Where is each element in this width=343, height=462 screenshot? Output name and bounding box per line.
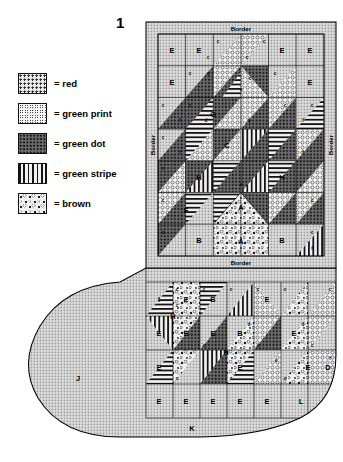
foot-label-E-14: E	[306, 363, 311, 372]
leg-mark-c-18: c	[311, 230, 314, 235]
diagram-root: 1 = red = green print = green dot = gree…	[0, 0, 343, 462]
leg-mark-c-14: c	[162, 166, 165, 171]
leg-mark-c-1: c	[217, 39, 220, 44]
leg-label-E-r2c6: E	[308, 78, 313, 87]
leg-mark-c-11: c	[284, 103, 287, 108]
leg-mark-c-6: c	[207, 71, 210, 76]
foot-mark-c-5: c	[284, 287, 287, 292]
leg-mark-c-4: c	[246, 55, 249, 60]
stocking-diagram: I J K L D E E E E E E E E E E E E E E B …	[0, 0, 343, 462]
foot-label-E-7: E	[157, 363, 162, 372]
leg-mark-c-8: c	[274, 71, 277, 76]
leg-mark-c-12: c	[311, 103, 314, 108]
leg-mark-e-2: e	[240, 182, 243, 187]
foot-label-E-2: E	[184, 397, 189, 406]
foot-label-B-2: B	[237, 329, 242, 338]
border-label-top: Border	[231, 25, 252, 32]
foot-mark-c-7: c	[176, 303, 179, 308]
border-label-right: Border	[327, 134, 334, 155]
leg-mark-c-15: c	[162, 198, 165, 203]
foot-label-B-1: B	[210, 295, 215, 304]
leg-mark-c-10: c	[189, 103, 192, 108]
foot-mark-d-1: d	[248, 322, 251, 327]
stocking-leg-panel: Border Border Border Border E E E E E E …	[146, 22, 336, 268]
leg-mark-d-1: d	[205, 118, 208, 123]
leg-label-A-trunk: A	[238, 237, 244, 246]
foot-label-E-11: E	[238, 363, 243, 372]
foot-label-H-2: H	[223, 348, 228, 357]
leg-mark-d-2: d	[248, 118, 251, 123]
foot-label-J: J	[76, 374, 80, 383]
foot-mark-c-8: c	[203, 343, 206, 348]
leg-label-E-r1c1: E	[170, 46, 175, 55]
foot-mark-c-13: c	[284, 376, 287, 381]
foot-mark-e-1: e	[275, 358, 278, 363]
border-label-bottom: Border	[231, 259, 252, 266]
leg-mark-c-17: c	[311, 198, 314, 203]
foot-label-E-1: E	[157, 397, 162, 406]
leg-mark-c-9: c	[162, 103, 165, 108]
leg-mark-c-7: c	[249, 76, 252, 81]
leg-label-H-1: H	[196, 173, 201, 182]
foot-mark-c-12: c	[230, 376, 233, 381]
foot-mark-d-2: d	[302, 322, 305, 327]
foot-mark-c-11: c	[176, 376, 179, 381]
leg-label-B-left: B	[196, 236, 201, 245]
foot-mark-c-4: c	[257, 287, 260, 292]
leg-label-G-1: G	[210, 110, 216, 119]
foot-mark-c-6: c	[329, 287, 332, 292]
foot-label-E-8: E	[184, 295, 189, 304]
foot-label-E-12: E	[265, 295, 270, 304]
leg-label-F-left: F	[184, 206, 189, 215]
foot-label-E-10: E	[184, 329, 189, 338]
foot-label-L: L	[299, 397, 304, 406]
foot-label-E-9: E	[211, 329, 216, 338]
stocking-foot	[0, 260, 343, 462]
leg-label-H-2: H	[279, 173, 284, 182]
leg-mark-c-13: c	[162, 135, 165, 140]
leg-label-E-r1c6: E	[308, 46, 313, 55]
foot-label-D: D	[325, 363, 331, 372]
leg-mark-c-5: c	[189, 71, 192, 76]
leg-label-E-r2c1: E	[170, 78, 175, 87]
foot-mark-c-2: c	[203, 287, 206, 292]
foot-mark-c-9: c	[257, 343, 260, 348]
border-label-left: Border	[149, 134, 156, 155]
foot-label-E-4: E	[238, 397, 243, 406]
foot-mark-c-3: c	[230, 287, 233, 292]
foot-mark-c-1: c	[176, 287, 179, 292]
leg-label-E-r1c5: E	[280, 46, 285, 55]
leg-label-A-top: A	[238, 203, 244, 212]
leg-mark-c-3: c	[207, 55, 210, 60]
foot-mark-c-10: c	[311, 343, 314, 348]
foot-label-H-1: H	[170, 312, 175, 321]
foot-label-I: I	[158, 295, 160, 304]
leg-mark-c-16: c	[162, 230, 165, 235]
leg-label-C-center: C	[224, 141, 230, 150]
leg-mark-e-1: e	[240, 87, 243, 92]
leg-mark-c-2: c	[263, 39, 266, 44]
leg-label-B-right: B	[279, 236, 284, 245]
foot-label-K: K	[189, 424, 195, 433]
leg-label-E-r1c2: E	[197, 46, 202, 55]
foot-label-E-13: E	[292, 329, 297, 338]
foot-label-E-5: E	[265, 397, 270, 406]
foot-label-E-6: E	[157, 329, 162, 338]
foot-label-E-3: E	[211, 397, 216, 406]
